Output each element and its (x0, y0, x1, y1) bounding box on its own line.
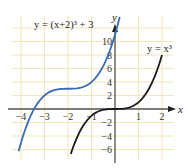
curves (19, 17, 162, 154)
y-tick-label: 10 (102, 36, 112, 47)
y-tick-label: 2 (107, 90, 112, 101)
series-label-cubic: y = x³ (147, 43, 172, 54)
x-tick-label: −4 (16, 111, 27, 122)
x-tick-label: −2 (63, 111, 74, 122)
y-tick-label: −4 (101, 131, 112, 142)
x-axis-label: x (177, 103, 183, 115)
curve-cubic (71, 55, 162, 154)
x-tick-label: 2 (160, 111, 165, 122)
y-axis-label: y (111, 11, 117, 23)
y-tick-label: −6 (101, 144, 112, 155)
chart: x y −4−3−2−112−6−4−2246810 y = (x+2)³ + … (0, 0, 188, 168)
axes: x y (8, 11, 183, 163)
y-tick-label: 4 (107, 77, 112, 88)
x-tick-label: 1 (136, 111, 141, 122)
y-tick-label: 6 (107, 63, 112, 74)
series-label-shifted-cubic: y = (x+2)³ + 3 (34, 19, 93, 31)
x-tick-label: −3 (39, 111, 50, 122)
x-axis-arrow-icon (168, 106, 176, 112)
y-tick-label: −2 (101, 117, 112, 128)
